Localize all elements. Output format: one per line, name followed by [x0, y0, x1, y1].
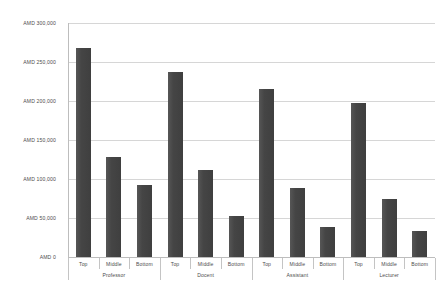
bar-chart: AMD 0AMD 50,000AMD 100,000AMD 150,000AMD… — [0, 0, 445, 298]
y-axis-tick-label: AMD 300,000 — [23, 20, 56, 26]
x-axis-tick — [374, 258, 375, 269]
y-axis-tick-label: AMD 100,000 — [23, 176, 56, 182]
x-axis-group-label: Lecturer — [379, 272, 399, 278]
x-axis-group-label: Docent — [197, 272, 214, 278]
x-axis-tick — [313, 258, 314, 269]
x-axis-tick-label: Bottom — [136, 261, 153, 267]
y-axis-tick-label: AMD 250,000 — [23, 59, 56, 65]
x-axis-tick-label: Middle — [106, 261, 122, 267]
x-axis-categories: TopMiddleBottomProfessorTopMiddleBottomD… — [68, 258, 435, 298]
x-axis-tick — [190, 258, 191, 269]
x-axis-tick-label: Top — [79, 261, 88, 267]
x-axis-tick-label: Top — [171, 261, 180, 267]
bar — [106, 157, 121, 257]
x-axis-tick-label: Bottom — [411, 261, 428, 267]
x-axis-tick — [221, 258, 222, 269]
x-axis-group-label: Assistant — [287, 272, 309, 278]
x-axis-tick — [99, 258, 100, 269]
bar — [168, 72, 183, 257]
x-axis-tick — [129, 258, 130, 269]
x-axis-group-tick — [435, 258, 436, 280]
y-axis-tick-label: AMD 200,000 — [23, 98, 56, 104]
x-axis-tick-label: Middle — [198, 261, 214, 267]
x-axis-tick-label: Middle — [290, 261, 306, 267]
x-axis-tick-label: Top — [354, 261, 363, 267]
x-axis-group-tick — [252, 258, 253, 280]
x-axis-group-tick — [68, 258, 69, 280]
x-axis-tick-label: Top — [263, 261, 272, 267]
bars-layer — [68, 23, 435, 257]
bar — [412, 231, 427, 257]
x-axis-tick — [404, 258, 405, 269]
bar — [320, 227, 335, 257]
y-axis-labels: AMD 0AMD 50,000AMD 100,000AMD 150,000AMD… — [0, 0, 64, 298]
bar — [229, 216, 244, 257]
bar — [259, 89, 274, 257]
bar — [76, 48, 91, 257]
bar — [290, 188, 305, 257]
x-axis-group-tick — [160, 258, 161, 280]
x-axis-tick-label: Middle — [381, 261, 397, 267]
x-axis-tick-label: Bottom — [228, 261, 245, 267]
x-axis-group-tick — [343, 258, 344, 280]
bar — [382, 199, 397, 257]
y-axis-tick-label: AMD 50,000 — [26, 215, 56, 221]
x-axis-tick-label: Bottom — [320, 261, 337, 267]
bar — [137, 185, 152, 257]
y-axis-tick-label: AMD 0 — [40, 254, 56, 260]
bar — [351, 103, 366, 257]
y-axis-tick-label: AMD 150,000 — [23, 137, 56, 143]
bar — [198, 170, 213, 257]
x-axis-group-label: Professor — [103, 272, 126, 278]
x-axis-tick — [282, 258, 283, 269]
